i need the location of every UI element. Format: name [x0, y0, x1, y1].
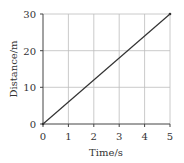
distance-time-chart: 0 10 20 30 0 1 2 3 4 5 Time/s Distance/m — [0, 0, 184, 163]
x-tick: 0 — [40, 131, 46, 142]
y-axis-label: Distance/m — [8, 40, 19, 98]
data-point — [169, 13, 172, 16]
series-line — [43, 14, 170, 124]
x-tick: 5 — [167, 131, 173, 142]
data-point — [42, 123, 45, 126]
x-tick: 1 — [65, 131, 71, 142]
y-tick-labels: 0 10 20 30 — [23, 9, 36, 130]
x-tick-labels: 0 1 2 3 4 5 — [40, 131, 173, 142]
y-tick: 0 — [30, 119, 36, 130]
x-tick: 4 — [141, 131, 147, 142]
y-tick: 10 — [23, 82, 36, 93]
x-axis-label: Time/s — [89, 147, 123, 158]
x-tick: 3 — [116, 131, 122, 142]
y-tick: 20 — [23, 46, 36, 57]
y-tick: 30 — [23, 9, 36, 20]
x-tick: 2 — [91, 131, 97, 142]
